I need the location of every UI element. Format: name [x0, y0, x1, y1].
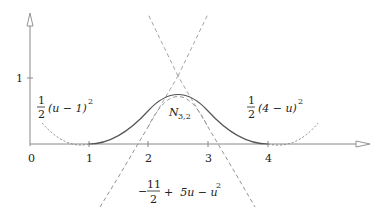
x-tick-label-4: 4 — [265, 152, 272, 165]
label-left-piece: 1 2 (u − 1) 2 — [37, 94, 93, 121]
label-center-name: N 3,2 — [168, 106, 191, 121]
y-axis-arrow-icon — [27, 13, 33, 26]
x-tick-label-2: 2 — [145, 152, 152, 165]
svg-text:+ 5u − u: + 5u − u — [164, 186, 218, 199]
svg-text:2: 2 — [38, 108, 45, 121]
svg-text:2: 2 — [248, 108, 255, 121]
left-parabola-extension — [42, 123, 89, 145]
svg-text:(u − 1): (u − 1) — [48, 102, 87, 115]
x-axis-arrow-icon — [356, 141, 370, 147]
svg-text:11: 11 — [147, 178, 161, 191]
x-tick-label-0: 0 — [28, 152, 35, 165]
svg-text:2: 2 — [298, 97, 303, 106]
svg-text:−: − — [138, 185, 147, 198]
svg-text:(4 − u): (4 − u) — [258, 102, 297, 115]
svg-text:2: 2 — [150, 193, 157, 206]
svg-text:3,2: 3,2 — [178, 112, 191, 121]
x-tick-label-3: 3 — [205, 152, 212, 165]
right-parabola-extension — [268, 123, 318, 145]
svg-text:1: 1 — [248, 94, 255, 107]
label-middle-piece: − 11 2 + 5u − u 2 — [138, 178, 221, 206]
bspline-diagram: 1 0 1 2 3 4 1 2 (u − 1) 2 N 3,2 1 2 (4 − — [0, 0, 382, 221]
x-tick-label-1: 1 — [86, 152, 93, 165]
y-tick-label-1: 1 — [16, 72, 23, 85]
svg-text:2: 2 — [88, 97, 93, 106]
y-axis: 1 — [16, 13, 33, 146]
svg-text:2: 2 — [216, 181, 221, 190]
label-right-piece: 1 2 (4 − u) 2 — [247, 94, 303, 121]
svg-text:1: 1 — [38, 94, 45, 107]
